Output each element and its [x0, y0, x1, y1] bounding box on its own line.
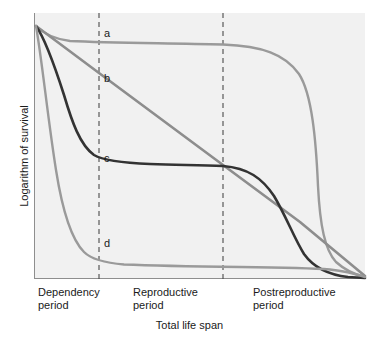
period-label-postreproductive: Postreproductive period [253, 286, 336, 311]
curve-label-d: d [104, 238, 110, 249]
period-label-reproductive: Reproductive period [133, 286, 198, 311]
x-axis-title: Total life span [0, 319, 379, 331]
curve-label-b: b [104, 73, 110, 84]
survivorship-curve-figure: a b c d Logarithm of survival Dependency… [0, 0, 379, 338]
curve-label-c: c [104, 153, 110, 164]
y-axis-title: Logarithm of survival [18, 76, 30, 236]
curve-label-a: a [104, 28, 110, 39]
period-label-dependency: Dependency period [38, 286, 100, 311]
